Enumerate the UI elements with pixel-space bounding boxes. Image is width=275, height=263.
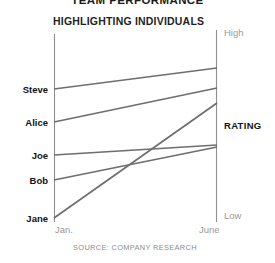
series-line-alice xyxy=(54,88,217,122)
x-axis-start-label: Jan. xyxy=(55,224,73,235)
x-axis-end-label: June xyxy=(199,224,220,235)
slope-chart: TEAM PERFORMANCE HIGHLIGHTING INDIVIDUAL… xyxy=(0,0,275,263)
y-axis-low-label: Low xyxy=(224,210,241,221)
source-note: SOURCE: COMPANY RESEARCH xyxy=(73,243,197,252)
series-label-jane: Jane xyxy=(0,213,48,224)
chart-plot-area xyxy=(0,0,275,263)
series-label-joe: Joe xyxy=(0,150,48,161)
series-line-jane xyxy=(54,103,217,218)
series-label-alice: Alice xyxy=(0,117,48,128)
series-line-joe xyxy=(54,145,217,155)
series-label-bob: Bob xyxy=(0,175,48,186)
series-label-steve: Steve xyxy=(0,84,48,95)
y-axis-title: RATING xyxy=(224,120,262,131)
series-line-steve xyxy=(54,68,217,89)
series-line-bob xyxy=(54,147,217,180)
y-axis-high-label: High xyxy=(224,27,244,38)
